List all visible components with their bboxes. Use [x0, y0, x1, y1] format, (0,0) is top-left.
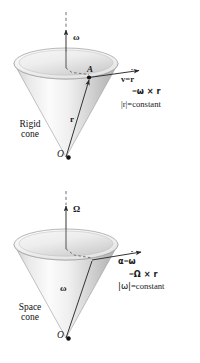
r-dot-symbol: ˙r [130, 73, 134, 85]
position-vector-label: r [70, 115, 74, 124]
equation-line-1: v=˙r [121, 73, 161, 85]
equation-line-2: =ω × r [121, 85, 161, 98]
rigid-cone-label: Rigid cone [8, 120, 52, 140]
constant-word-1: constant [132, 99, 161, 109]
space-cone-drawing [0, 181, 200, 363]
magnitude-omega: |ω| [118, 281, 131, 291]
space-cone-equations: α=˙ω =Ω × r |ω|=constant [118, 255, 165, 292]
rotation-cones-figure: ω A r O Rigid cone v=˙r =ω × r |r|=const… [0, 0, 200, 363]
point-a-marker [87, 75, 91, 79]
equation-line-3: |r|=constant [121, 98, 161, 110]
equation-line-5: =Ω × r [118, 268, 165, 281]
omega-cross-r: ω × r [137, 86, 161, 96]
point-a-label: A [87, 65, 93, 74]
constant-word-2: constant [136, 281, 165, 291]
rigid-cone-label-line2: cone [8, 130, 52, 140]
space-cone-label: Space cone [6, 303, 54, 323]
rigid-cone-equations: v=˙r =ω × r |r|=constant [121, 73, 161, 110]
origin-marker-space [66, 336, 70, 340]
space-cone-label-line2: cone [6, 313, 54, 323]
origin-label-space: O [57, 331, 64, 341]
origin-label-rigid: O [57, 150, 64, 160]
rigid-cone-panel: ω A r O Rigid cone v=˙r =ω × r |r|=const… [0, 0, 200, 182]
precession-vector-label: Ω [73, 205, 80, 214]
rigid-cone-drawing [0, 0, 200, 182]
angular-velocity-label: ω [73, 33, 80, 42]
space-cone-panel: Ω ω O Space cone α=˙ω =Ω × r |ω|=constan… [0, 181, 200, 363]
equation-line-4: α=˙ω [118, 255, 165, 268]
capital-omega-cross-r: Ω × r [134, 269, 158, 279]
omega-dot-symbol: ˙ω [128, 256, 135, 268]
origin-marker-rigid [66, 155, 70, 159]
omega-slant-label: ω [60, 284, 67, 293]
equation-line-6: |ω|=constant [118, 280, 165, 292]
